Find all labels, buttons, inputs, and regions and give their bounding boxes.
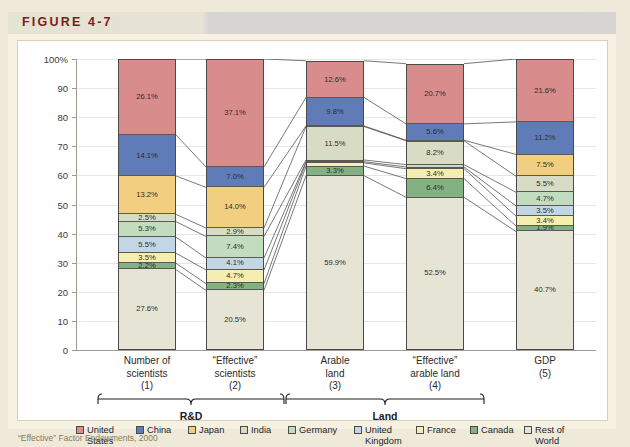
bar-segment[interactable]: 7.0% xyxy=(207,167,263,187)
bar-segment-value-label: 20.5% xyxy=(224,316,246,324)
x-axis-label-line: GDP xyxy=(497,355,593,368)
x-axis-label-line: arable land xyxy=(387,368,483,381)
bar-segment[interactable]: 4.7% xyxy=(207,270,263,284)
bar-segment[interactable]: 40.7% xyxy=(517,231,573,349)
y-axis-tick-label: 30 xyxy=(57,257,68,268)
bar-segment-value-label: 2.5% xyxy=(138,214,155,221)
bar-segment[interactable]: 5.3% xyxy=(119,222,175,237)
bar-segment[interactable]: 6.4% xyxy=(407,179,463,197)
stacked-bar[interactable]: 21.6%11.2%7.5%5.5%4.7%3.5%3.4%1.9%40.7% xyxy=(516,59,574,350)
bar-segment-value-label: 14.0% xyxy=(224,203,246,211)
bar-segment[interactable]: 11.5% xyxy=(307,127,363,160)
bar-segment-value-label: 11.5% xyxy=(325,140,346,148)
stacked-bar[interactable]: 12.6%9.8%11.5%3.3%59.9% xyxy=(306,61,364,350)
bar-segment-value-label: 5.3% xyxy=(138,225,155,233)
x-axis-label-line: scientists xyxy=(99,368,195,381)
bar-segment[interactable]: 3.5% xyxy=(119,253,175,263)
bar-segment[interactable]: 3.4% xyxy=(407,169,463,179)
x-axis-label: “Effective”arable land(4) xyxy=(387,355,483,393)
y-axis-tick-label: 0 xyxy=(63,345,68,356)
bar-segment-value-label: 6.4% xyxy=(426,184,443,192)
figure-label: FIGURE 4-7 xyxy=(22,15,113,29)
bar-segment[interactable]: 4.7% xyxy=(517,192,573,206)
bar-segment[interactable]: 14.1% xyxy=(119,135,175,176)
y-axis xyxy=(76,59,77,351)
bar-segment[interactable]: 14.0% xyxy=(207,187,263,227)
bar-segment[interactable]: 2.5% xyxy=(119,214,175,221)
x-axis-label: GDP(5) xyxy=(497,355,593,380)
x-axis-label-line: land xyxy=(287,368,383,381)
bar-segment[interactable]: 59.9% xyxy=(307,176,363,349)
bar-segment-value-label: 5.5% xyxy=(138,241,155,249)
bar-segment-value-label: 59.9% xyxy=(324,259,346,267)
bar-segment-value-label: 3.5% xyxy=(536,207,553,215)
y-axis-tick-label: 100% xyxy=(44,54,68,65)
bar-segment[interactable]: 21.6% xyxy=(517,60,573,122)
stacked-bar[interactable]: 37.1%7.0%14.0%2.9%7.4%4.1%4.7%2.3%20.5% xyxy=(206,59,264,350)
bar-segment[interactable]: 37.1% xyxy=(207,60,263,167)
x-axis-label-line: Arable xyxy=(287,355,383,368)
bar-segment-value-label: 5.5% xyxy=(536,180,553,188)
bar-segment[interactable]: 2.3% xyxy=(207,283,263,290)
bar-segment-value-label: 2.9% xyxy=(226,228,243,236)
figure-page: FIGURE 4-7 0102030405060708090100% 26.1%… xyxy=(0,0,630,447)
bar-segment-value-label: 7.5% xyxy=(536,161,553,169)
bar-segment-value-label: 5.6% xyxy=(426,128,443,136)
bar-segment[interactable]: 5.5% xyxy=(119,237,175,253)
bar-segment[interactable]: 13.2% xyxy=(119,176,175,214)
y-axis-tick-label: 20 xyxy=(57,286,68,297)
bar-segment[interactable]: 7.4% xyxy=(207,236,263,257)
bar-segment[interactable]: 20.7% xyxy=(407,65,463,125)
bar-segment[interactable]: 20.5% xyxy=(207,290,263,349)
x-axis-label-line: (5) xyxy=(497,368,593,381)
x-axis-label: “Effective”scientists(2) xyxy=(187,355,283,393)
bar-segment-value-label: 8.2% xyxy=(426,149,443,157)
x-axis-label-line: scientists xyxy=(187,368,283,381)
group-label: Land xyxy=(345,410,425,422)
bar-segment[interactable]: 9.8% xyxy=(307,98,363,126)
bar-segment[interactable]: 3.3% xyxy=(307,167,363,177)
bar-segment-value-label: 21.6% xyxy=(534,87,556,95)
x-axis-label-line: (3) xyxy=(287,380,383,393)
bar-segment[interactable]: 3.4% xyxy=(517,216,573,226)
x-axis-label-line: Number of xyxy=(99,355,195,368)
bar-segment-value-label: 7.0% xyxy=(226,173,243,181)
y-axis-tick-label: 50 xyxy=(57,199,68,210)
bar-segment[interactable]: 8.2% xyxy=(407,142,463,166)
bar-segment-value-label: 52.5% xyxy=(424,269,446,277)
bar-segment[interactable]: 11.2% xyxy=(517,122,573,154)
bar-segment[interactable]: 26.1% xyxy=(119,60,175,135)
bar-segment[interactable]: 27.6% xyxy=(119,269,175,349)
bar-segment-value-label: 37.1% xyxy=(224,109,246,117)
x-axis-label-line: (2) xyxy=(187,380,283,393)
x-axis xyxy=(76,350,596,351)
y-axis-tick-label: 10 xyxy=(57,315,68,326)
bar-segment-value-label: 4.7% xyxy=(536,195,553,203)
bar-segment[interactable]: 7.5% xyxy=(517,155,573,177)
y-axis-tick-label: 40 xyxy=(57,228,68,239)
bar-segment-value-label: 4.7% xyxy=(226,272,243,280)
group-label: R&D xyxy=(151,410,231,422)
bar-segment[interactable]: 4.1% xyxy=(207,258,263,270)
bar-segment[interactable]: 5.6% xyxy=(407,124,463,140)
x-axis-label-line: “Effective” xyxy=(387,355,483,368)
bar-segment[interactable]: 5.5% xyxy=(517,176,573,192)
bar-segment-value-label: 20.7% xyxy=(424,90,446,98)
bar-segment[interactable]: 2.9% xyxy=(207,228,263,236)
y-axis-tick-label: 70 xyxy=(57,141,68,152)
bar-segment-value-label: 3.3% xyxy=(326,167,343,175)
figure-caption: “Effective” Factor Endowments, 2000 xyxy=(18,433,578,443)
bar-segment-value-label: 4.1% xyxy=(226,259,243,267)
x-axis-label-line: (4) xyxy=(387,380,483,393)
y-axis-tick-label: 60 xyxy=(57,170,68,181)
group-braces xyxy=(76,393,596,409)
bar-segment[interactable]: 12.6% xyxy=(307,62,363,98)
bar-segment[interactable]: 52.5% xyxy=(407,198,463,349)
stacked-bar[interactable]: 26.1%14.1%13.2%2.5%5.3%5.5%3.5%2.2%27.6% xyxy=(118,59,176,350)
x-axis-label-line: “Effective” xyxy=(187,355,283,368)
bar-segment-value-label: 9.8% xyxy=(326,108,343,116)
bar-segment-value-label: 12.6% xyxy=(324,76,346,84)
stacked-bar[interactable]: 20.7%5.6%8.2%3.4%6.4%52.5% xyxy=(406,64,464,350)
bar-segment[interactable]: 3.5% xyxy=(517,206,573,216)
bar-segment-value-label: 2.3% xyxy=(226,283,243,290)
